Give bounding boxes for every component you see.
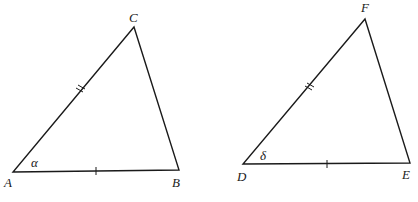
angle-label-delta: δ	[260, 148, 267, 163]
triangle-def: F D E δ	[236, 0, 410, 184]
congruence-diagram: C A B α F D E δ	[0, 0, 418, 202]
vertex-label-b: B	[172, 175, 180, 190]
triangle-abc: C A B α	[3, 10, 180, 190]
vertex-label-c: C	[129, 10, 138, 25]
vertex-label-e: E	[401, 167, 410, 182]
triangle-def-outline	[243, 19, 410, 164]
vertex-label-a: A	[3, 175, 12, 190]
triangle-abc-outline	[13, 27, 179, 172]
double-tick-mark-ac	[76, 85, 85, 92]
angle-label-alpha: α	[31, 155, 39, 170]
vertex-label-f: F	[360, 0, 370, 15]
vertex-label-d: D	[236, 169, 247, 184]
